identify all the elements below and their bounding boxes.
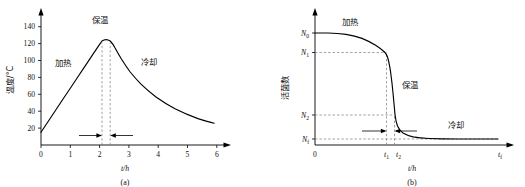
y-tick-label-b-n1: N1 (300, 48, 309, 58)
chart-b-svg: N0 N1 N2 Nf 0 t1 t2 tf 活菌数 t/h (262, 0, 525, 187)
y-tick-label-a-60: 60 (27, 90, 35, 99)
annotation-heating-a: 加热 (55, 58, 72, 68)
x-tick-label-a-1: 1 (68, 150, 72, 159)
x-tick-label-a-4: 4 (156, 150, 160, 159)
x-axis-arrow-b (507, 142, 515, 147)
y-ticks-b (312, 33, 315, 139)
y-tick-label-a-120: 120 (24, 39, 36, 48)
annotation-holding-b: 保温 (402, 80, 419, 90)
y-tick-label-a-40: 40 (27, 107, 35, 116)
x-tick-sub-b-1: 1 (386, 154, 389, 160)
annotation-holding-a: 保温 (92, 15, 109, 25)
x-axis-arrow-a (224, 142, 232, 147)
y-tick-label-b-n2: N2 (300, 111, 309, 121)
annotation-heating-b: 加热 (342, 17, 359, 27)
x-axis-title-a: t/h (121, 164, 129, 173)
x-tick-label-a-2: 2 (98, 150, 102, 159)
y-tick-sub-b-0: 0 (306, 33, 309, 39)
x-tick-label-a-3: 3 (127, 150, 131, 159)
x-tick-label-b-t1: t1 (384, 150, 389, 160)
y-tick-label-b-nf: Nf (301, 135, 309, 145)
y-tick-label-a-80: 80 (27, 73, 35, 82)
panel-caption-b: (b) (407, 178, 417, 187)
y-tick-label-a-140: 140 (24, 22, 36, 31)
figure-container: 20 40 60 80 100 120 140 0 1 2 3 4 5 6 (0, 0, 525, 187)
x-tick-label-a-0: 0 (39, 150, 43, 159)
annotation-cooling-a: 冷却 (141, 57, 157, 67)
x-tick-label-a-5: 5 (186, 150, 190, 159)
annotation-cooling-b: 冷却 (448, 120, 464, 130)
holding-interval-arrow-a (79, 133, 133, 137)
x-axis-title-b: t/h (408, 164, 416, 173)
x-tick-sub-b-f: f (500, 154, 502, 160)
chart-panel-a: 20 40 60 80 100 120 140 0 1 2 3 4 5 6 (0, 0, 262, 187)
x-tick-label-b-0: 0 (313, 150, 317, 159)
panel-caption-a: (a) (121, 178, 130, 187)
y-tick-sub-b-f: f (307, 139, 309, 145)
x-tick-sub-b-2: 2 (398, 154, 401, 160)
temperature-curve-a (41, 40, 214, 133)
x-tick-label-a-6: 6 (215, 150, 219, 159)
y-axis-title-a: 温度/°C (5, 65, 15, 94)
x-tick-label-b-tf: tf (498, 150, 502, 160)
y-tick-label-a-20: 20 (27, 124, 35, 133)
chart-a-svg: 20 40 60 80 100 120 140 0 1 2 3 4 5 6 (0, 0, 262, 187)
holding-interval-arrow-b (362, 129, 417, 133)
y-axis-title-b: 活菌数 (280, 76, 290, 100)
y-tick-sub-b-1: 1 (306, 52, 309, 58)
x-tick-label-b-t2: t2 (396, 150, 401, 160)
y-axis-arrow-b (312, 8, 317, 16)
y-axis-arrow-a (38, 8, 43, 16)
y-tick-sub-b-2: 2 (306, 115, 309, 121)
y-tick-label-b-n0: N0 (300, 29, 309, 39)
y-tick-label-a-100: 100 (24, 56, 36, 65)
chart-panel-b: N0 N1 N2 Nf 0 t1 t2 tf 活菌数 t/h (262, 0, 524, 187)
